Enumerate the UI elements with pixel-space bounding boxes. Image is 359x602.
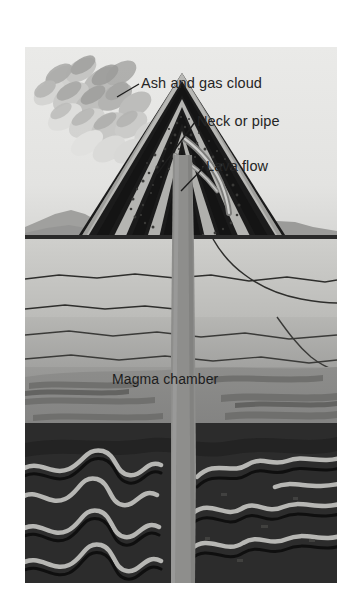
label-neck-or-pipe: Neck or pipe <box>197 114 280 129</box>
diagram-page: Ash and gas cloud Neck or pipe Lava flow… <box>0 0 359 602</box>
volcano-cross-section-svg <box>25 47 337 583</box>
label-magma-chamber: Magma chamber <box>112 372 218 386</box>
volcano-diagram-figure <box>25 47 337 583</box>
label-lava-flow: Lava flow <box>206 159 268 174</box>
label-ash-and-gas-cloud: Ash and gas cloud <box>141 76 262 91</box>
volcanic-neck-or-pipe <box>171 155 196 583</box>
